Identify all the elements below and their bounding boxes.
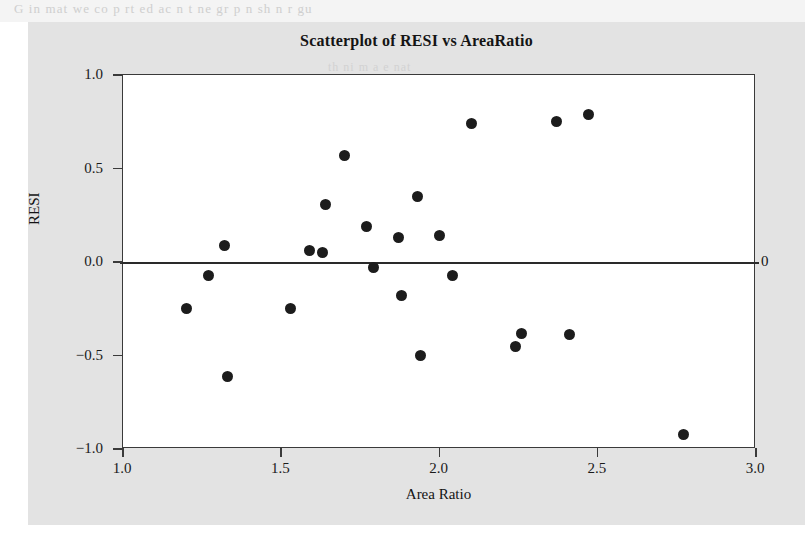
scan-bleedthrough-top: G in mat we co p rt ed ac n t ne gr p n … (0, 0, 805, 22)
x-axis-tick (439, 448, 441, 457)
plot-area (122, 74, 755, 448)
x-axis-tick-label: 3.0 (746, 460, 765, 477)
scatter-point (466, 118, 477, 129)
y-axis-tick (113, 74, 122, 76)
scatter-point (678, 429, 689, 440)
y-axis-tick (113, 355, 122, 357)
x-axis-title: Area Ratio (122, 486, 755, 503)
scatter-point (304, 245, 315, 256)
scatter-point (222, 371, 233, 382)
y-axis-tick-label: −1.0 (76, 440, 103, 457)
scatter-point (361, 221, 372, 232)
scatter-point (368, 262, 379, 273)
zero-line-label: 0 (761, 253, 769, 270)
x-axis-tick (122, 448, 124, 457)
scatter-point (551, 116, 562, 127)
scatter-point (219, 240, 230, 251)
x-axis-tick-label: 2.5 (587, 460, 606, 477)
x-axis-tick (280, 448, 282, 457)
scatter-point (396, 290, 407, 301)
scatter-point (415, 350, 426, 361)
scatter-point (564, 329, 575, 340)
scatter-point (339, 150, 350, 161)
chart-title: Scatterplot of RESI vs AreaRatio (28, 32, 805, 50)
panel-ghost-text-a: th ni m a e nat (328, 60, 411, 75)
scatter-point (285, 303, 296, 314)
scatter-point (203, 270, 214, 281)
y-axis-tick-label: 0.5 (84, 159, 103, 176)
y-axis-tick-label: 1.0 (84, 66, 103, 83)
bleedthrough-text: G in mat we co p rt ed ac n t ne gr p n … (14, 1, 313, 17)
y-axis-tick (113, 448, 122, 450)
scatter-point (393, 232, 404, 243)
y-axis-tick-label: 0.0 (84, 253, 103, 270)
scatter-point (320, 199, 331, 210)
x-axis-tick (597, 448, 599, 457)
scatter-point (434, 230, 445, 241)
y-axis-tick (113, 261, 122, 263)
page-background: G in mat we co p rt ed ac n t ne gr p n … (0, 0, 805, 551)
x-axis-tick (755, 448, 757, 457)
scatter-point (447, 270, 458, 281)
x-axis-tick-label: 1.0 (113, 460, 132, 477)
scatter-point (510, 341, 521, 352)
y-axis-title: RESI (26, 192, 43, 225)
chart-figure-panel: th ni m a e nat t h Scatterplot of RESI … (28, 22, 805, 525)
x-axis-tick-label: 1.5 (271, 460, 290, 477)
scatter-point (516, 328, 527, 339)
scatter-point (583, 109, 594, 120)
scatter-point (412, 191, 423, 202)
x-axis-tick-label: 2.0 (429, 460, 448, 477)
y-axis-tick (113, 168, 122, 170)
scatter-points-layer (123, 75, 754, 447)
y-axis-tick-label: −0.5 (76, 346, 103, 363)
scatter-point (317, 247, 328, 258)
scatter-point (181, 303, 192, 314)
